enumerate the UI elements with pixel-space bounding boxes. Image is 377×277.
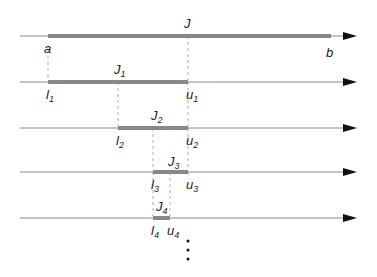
continuation-dots-icon — [187, 240, 190, 261]
nested-intervals-diagram: J a b J1 l1 u1 J2 l2 u2 J3 l3 u3 J4 l4 u… — [0, 0, 377, 277]
label-b: b — [326, 45, 333, 60]
arrow-icon — [343, 78, 357, 86]
arrow-icon — [343, 124, 357, 132]
label-a: a — [44, 41, 51, 56]
label-J4: J4 — [155, 199, 168, 216]
label-J3: J3 — [167, 154, 180, 171]
label-u3: u3 — [186, 177, 198, 194]
interval-J2 — [118, 126, 188, 130]
label-l4: l4 — [151, 223, 159, 240]
arrow-icon — [343, 214, 357, 222]
label-l3: l3 — [151, 177, 159, 194]
interval-J — [48, 34, 331, 38]
interval-J1 — [48, 80, 188, 84]
label-u1: u1 — [186, 87, 198, 104]
interval-J3 — [153, 170, 188, 174]
label-u2: u2 — [186, 133, 198, 150]
label-l1: l1 — [46, 87, 54, 104]
arrow-icon — [343, 32, 357, 40]
label-J1: J1 — [113, 62, 126, 79]
arrowheads — [343, 32, 357, 222]
arrow-icon — [343, 168, 357, 176]
label-J: J — [183, 16, 191, 31]
interval-bars — [48, 34, 331, 220]
interval-J4 — [153, 216, 170, 220]
label-u4: u4 — [167, 223, 179, 240]
label-J2: J2 — [150, 108, 163, 125]
label-l2: l2 — [116, 133, 124, 150]
